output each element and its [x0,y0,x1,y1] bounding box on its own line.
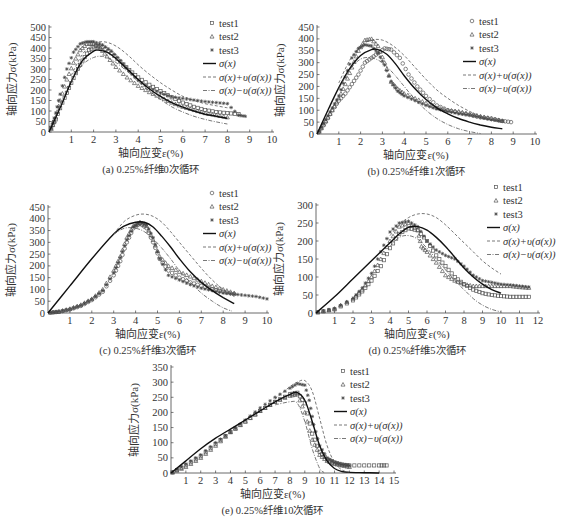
data-point [125,75,129,79]
x-axis-label: 轴向应变ε(%) [383,148,448,162]
data-point [410,77,414,81]
data-point [447,268,450,271]
series-test1 [50,44,241,129]
data-point [188,274,192,278]
legend-marker-icon [210,48,214,52]
y-tick-label: 350 [29,225,45,236]
chart-panel-b: 12345678910050100150200250300350400450轴向… [273,16,540,179]
legend-label: σ(x)−υ(σ(x)) [479,83,532,95]
data-point [447,255,451,259]
data-point [116,261,120,265]
figure: 1234567891005010015020025030035040045050… [0,0,570,531]
data-point [61,84,65,88]
data-point [57,310,61,314]
x-tick-label: 9 [302,475,307,486]
x-tick-label: 11 [514,315,524,326]
legend-item-test2: test2 [210,31,239,42]
data-point [501,119,505,123]
data-point [118,68,122,72]
data-point [90,298,94,302]
data-point [118,256,122,260]
data-point [247,294,251,298]
series---x------x-- [71,42,227,108]
series-test3 [316,219,531,314]
legend-label: σ(x)+υ(σ(x)) [479,70,532,82]
data-point [359,69,363,73]
curve [171,392,379,473]
data-point [524,285,528,289]
data-point [472,288,475,291]
data-point [63,76,67,80]
legend-label: test3 [503,209,523,220]
data-point [487,293,490,296]
legend-label: σ(x)+υ(σ(x)) [503,236,556,248]
data-point [410,97,414,101]
data-point [484,292,487,295]
data-point [129,78,133,82]
y-tick-label: 100 [152,437,168,448]
data-point [104,45,108,49]
data-point [487,280,491,284]
data-point [159,91,163,95]
legend-label: σ(x)+υ(σ(x)) [219,242,272,254]
data-point [444,265,447,268]
legend-marker-icon [470,33,474,37]
data-point [258,295,262,299]
x-tick-label: 2 [198,475,203,486]
data-point [363,464,366,467]
y-tick-label: 300 [30,64,46,75]
data-point [457,112,461,116]
data-point [440,269,444,273]
data-point [402,94,406,98]
y-axis-label: 轴向应力σ(kPa) [4,223,18,297]
legend-marker-icon [341,383,345,387]
legend-item-lower: σ(x)−υ(σ(x)) [203,255,272,267]
data-point [453,111,457,115]
y-tick-label: 400 [30,43,46,54]
data-point [444,273,448,277]
data-point [265,297,269,301]
data-point [72,306,76,310]
data-point [69,66,73,70]
x-tick-label: 2 [91,134,96,145]
legend-label: σ(x) [479,56,496,68]
legend-label: test2 [503,195,523,206]
legend-item-lower: σ(x)−υ(σ(x)) [463,83,532,95]
x-tick-label: 10 [262,315,273,326]
data-point [74,48,78,52]
data-point [177,99,180,102]
data-point [178,278,182,282]
data-point [203,287,207,291]
data-point [161,263,165,267]
data-point [428,253,432,257]
data-point [521,285,525,289]
data-point [72,50,76,54]
data-point [75,305,79,309]
legend-item-test3: test3 [210,215,239,226]
data-point [328,110,332,114]
legend-label: σ(x) [219,58,236,70]
data-point [125,238,129,242]
x-tick-label: 12 [344,475,355,486]
y-tick-label: 0 [309,129,314,140]
data-point [444,254,448,258]
data-point [203,100,207,104]
x-tick-label: 10 [267,134,278,145]
series-test2 [170,392,351,474]
data-point [348,464,352,468]
legend-marker-icon [210,21,213,24]
x-tick-label: 8 [225,134,230,145]
data-point [164,268,168,272]
legend-item-upper: σ(x)+υ(σ(x)) [203,242,272,254]
chart-panel-d: 123456789101112050100150200250300轴向应力σ(k… [272,182,556,358]
legend-item-mean: σ(x) [203,228,236,240]
data-point [388,230,392,234]
x-tick-label: 11 [329,475,339,486]
data-point [258,406,262,410]
legend: test1test2test3σ(x)σ(x)+υ(σ(x))σ(x)−υ(σ(… [203,18,272,98]
legend-item-test1: test1 [210,18,238,29]
data-point [222,111,225,114]
data-point [185,273,189,277]
x-tick-label: 4 [402,136,408,147]
data-point [496,282,500,286]
